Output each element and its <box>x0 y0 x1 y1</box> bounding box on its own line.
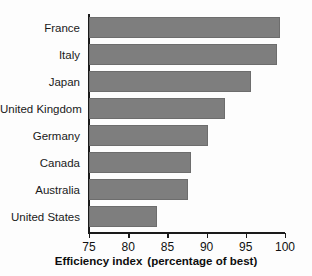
category-label: United Kingdom <box>0 96 85 123</box>
x-tick-label: 100 <box>275 240 295 254</box>
category-label: Germany <box>0 123 85 150</box>
bar-canada <box>89 152 191 173</box>
bar-chart: France Italy Japan United Kingdom German… <box>0 0 312 276</box>
bar-japan <box>89 71 251 92</box>
bar-united-kingdom <box>89 98 225 119</box>
bar-row <box>89 69 285 96</box>
x-tick <box>89 233 90 238</box>
category-label: Japan <box>0 69 85 96</box>
bar-italy <box>89 44 277 65</box>
bar-row <box>89 15 285 42</box>
x-tick <box>285 233 286 238</box>
category-label: France <box>0 15 85 42</box>
category-label: Italy <box>0 42 85 69</box>
x-axis-title: Efficiency index(percentage of best) <box>0 255 312 267</box>
x-axis-line <box>88 232 285 234</box>
x-tick <box>167 233 168 238</box>
x-tick <box>246 233 247 238</box>
x-tick <box>207 233 208 238</box>
y-axis-category-labels: France Italy Japan United Kingdom German… <box>0 15 85 231</box>
bar-row <box>89 204 285 231</box>
bar-row <box>89 177 285 204</box>
x-tick-label: 90 <box>200 240 213 254</box>
x-axis-title-main: Efficiency index <box>55 255 143 267</box>
bar-row <box>89 150 285 177</box>
bar-row <box>89 42 285 69</box>
plot-area: 7580859095100 <box>89 14 285 232</box>
bar-germany <box>89 125 208 146</box>
x-tick-label: 85 <box>161 240 174 254</box>
bar-australia <box>89 179 188 200</box>
x-tick <box>128 233 129 238</box>
x-tick-label: 75 <box>82 240 95 254</box>
bar-series <box>89 15 285 231</box>
category-label: Australia <box>0 177 85 204</box>
x-tick-label: 80 <box>122 240 135 254</box>
category-label: United States <box>0 204 85 231</box>
bar-row <box>89 123 285 150</box>
category-label: Canada <box>0 150 85 177</box>
bar-france <box>89 17 280 38</box>
x-axis-title-sub: (percentage of best) <box>147 255 257 267</box>
bar-united-states <box>89 206 157 227</box>
x-tick-label: 95 <box>239 240 252 254</box>
bar-row <box>89 96 285 123</box>
